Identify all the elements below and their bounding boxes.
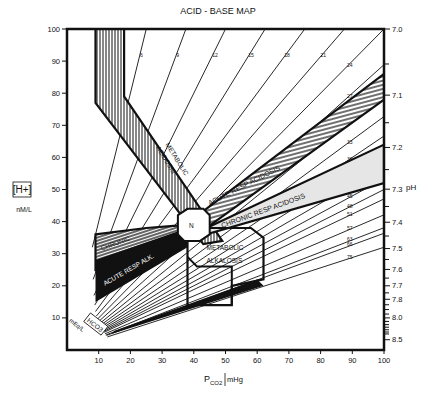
label-metabolic-alkalosis: METABOLIC	[206, 244, 243, 251]
y-tick-label: 30	[52, 249, 60, 258]
ph-axis-label: pH	[406, 183, 416, 192]
x-tick-label: 100	[378, 356, 391, 365]
hco3-isobar-value: 6	[140, 52, 143, 58]
svg-text:mHg: mHg	[227, 375, 243, 384]
acid-base-map-chart: ACID - BASE MAP 691215182124273033363942…	[0, 0, 436, 394]
x-tick-label: 60	[253, 356, 261, 365]
y-tick-label: 90	[52, 57, 60, 66]
ph-axis-ticks: 7.07.17.27.37.47.57.67.77.88.08.5	[384, 25, 402, 345]
x-tick-label: 90	[348, 356, 356, 365]
x-axis-label: P CO2 mHg	[204, 373, 243, 386]
x-tick-label: 10	[95, 356, 103, 365]
chart-title: ACID - BASE MAP	[180, 6, 256, 16]
hco3-isobar-value: 15	[248, 52, 254, 58]
ph-tick-label: 7.0	[392, 25, 402, 34]
hco3-isobar-value: 18	[284, 52, 290, 58]
hco3-isobar-value: 9	[176, 52, 179, 58]
hco3-isobar-value: 21	[320, 52, 326, 58]
hco3-isobar-value: 33	[347, 139, 353, 145]
x-tick-label: 20	[126, 356, 134, 365]
hco3-isobar-value: 57	[347, 225, 353, 231]
y-axis-label-h: [H+]	[13, 184, 32, 195]
ph-tick-label: 8.5	[392, 335, 402, 344]
x-axis-ticks: 102030405060708090100	[95, 350, 391, 365]
ph-tick-label: 7.2	[392, 143, 402, 152]
label-metabolic-alkalosis-2: ALKALOSIS	[206, 257, 242, 264]
ph-tick-label: 7.6	[392, 265, 402, 274]
x-tick-label: 80	[316, 356, 324, 365]
label-normal: N	[189, 222, 194, 229]
hco3-isobar-value: 75	[347, 254, 353, 260]
ph-tick-label: 7.5	[392, 244, 402, 253]
y-axis-unit: nM/L	[16, 206, 32, 213]
hco3-isobar-value: 48	[347, 203, 353, 209]
ph-tick-label: 8.0	[392, 313, 402, 322]
hco3-isobar-value: 51	[347, 211, 353, 217]
y-tick-label: 40	[52, 217, 60, 226]
y-tick-label: 50	[52, 185, 60, 194]
x-tick-label: 50	[221, 356, 229, 365]
y-tick-label: 10	[52, 313, 60, 322]
svg-text:mEq/L: mEq/L	[68, 317, 86, 333]
hco3-isobar-value: 66	[347, 241, 353, 247]
y-tick-label: 20	[52, 281, 60, 290]
plot-area: 69121518212427303336394245485157636675ME…	[92, 29, 384, 337]
ph-tick-label: 7.7	[392, 281, 402, 290]
svg-text:CO2: CO2	[210, 380, 223, 386]
y-tick-label: 60	[52, 153, 60, 162]
y-tick-label: 80	[52, 89, 60, 98]
hco3-isobar-label: HCO3 mEq/L	[68, 306, 108, 343]
y-axis-ticks: 102030405060708090100	[47, 25, 67, 323]
ph-tick-label: 7.4	[392, 218, 402, 227]
y-tick-label: 100	[47, 25, 60, 34]
ph-tick-label: 7.1	[392, 91, 402, 100]
x-tick-label: 40	[190, 356, 198, 365]
ph-tick-label: 7.3	[392, 185, 402, 194]
ph-tick-label: 7.8	[392, 295, 402, 304]
x-tick-label: 30	[158, 356, 166, 365]
hco3-isobar-value: 24	[347, 62, 353, 68]
x-tick-label: 70	[285, 356, 293, 365]
region-normal	[178, 209, 210, 241]
y-tick-label: 70	[52, 121, 60, 130]
hco3-isobar-value: 12	[212, 52, 218, 58]
